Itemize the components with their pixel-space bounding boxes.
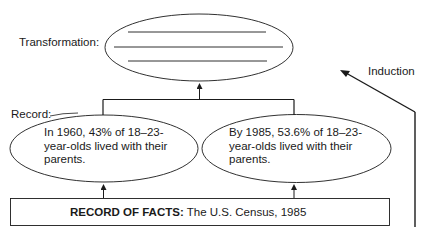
record-1985-text: By 1985, 53.6% of 18–23- year-olds lived… xyxy=(229,126,362,167)
record-leader-line xyxy=(50,113,78,116)
record-of-facts-label: RECORD OF FACTS: xyxy=(70,206,184,218)
record-of-facts-source: The U.S. Census, 1985 xyxy=(187,206,307,218)
record-label: Record: xyxy=(11,108,51,121)
record-to-transformation-connector xyxy=(103,86,294,115)
induction-label: Induction xyxy=(368,65,415,78)
transformation-ellipse xyxy=(105,14,293,81)
record-of-facts-text: RECORD OF FACTS: The U.S. Census, 1985 xyxy=(70,205,306,219)
record-1960-text: In 1960, 43% of 18–23- year-olds lived w… xyxy=(44,126,167,167)
arrow-head-icon xyxy=(340,70,350,77)
transformation-label: Transformation: xyxy=(19,36,99,49)
